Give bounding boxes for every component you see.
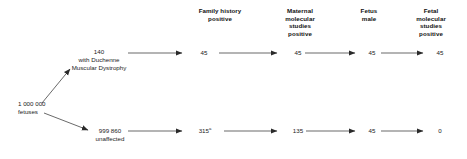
node-root: 1 000 000 fetuses bbox=[18, 100, 80, 116]
diagram-canvas: Family history positive Maternal molecul… bbox=[0, 0, 467, 159]
value-unaffected-family-history-number: 315 bbox=[199, 127, 209, 134]
diagram-edges bbox=[0, 0, 467, 159]
value-unaffected-family-history: 315a bbox=[190, 127, 220, 135]
node-unaffected-start: 999 860 unaffected bbox=[86, 127, 134, 143]
value-unaffected-fetus-male: 45 bbox=[360, 127, 384, 135]
value-affected-maternal-molecular: 45 bbox=[286, 49, 310, 57]
value-affected-family-history: 45 bbox=[192, 49, 216, 57]
value-unaffected-fetal-molecular: 0 bbox=[428, 127, 452, 135]
value-unaffected-maternal-molecular: 135 bbox=[286, 127, 310, 135]
node-affected-start: 140 with Duchenne Muscular Dystrophy bbox=[68, 48, 130, 71]
value-affected-fetal-molecular: 45 bbox=[428, 49, 452, 57]
footnote-marker-a: a bbox=[209, 126, 211, 131]
value-affected-fetus-male: 45 bbox=[360, 49, 384, 57]
edge-root-to-affected bbox=[42, 69, 70, 103]
